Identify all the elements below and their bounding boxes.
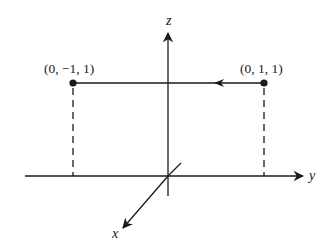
point-left-label: (0, −1, 1) [44,61,94,77]
point-right-dot [260,79,267,86]
x-axis-label: x [112,226,118,242]
y-axis-label: y [309,168,315,184]
x-axis [123,176,168,228]
point-right-label: (0, 1, 1) [240,61,283,77]
point-left-dot [69,79,76,86]
z-axis-label: z [166,13,171,29]
coordinate-diagram [0,0,332,252]
x-axis-back [168,163,181,176]
